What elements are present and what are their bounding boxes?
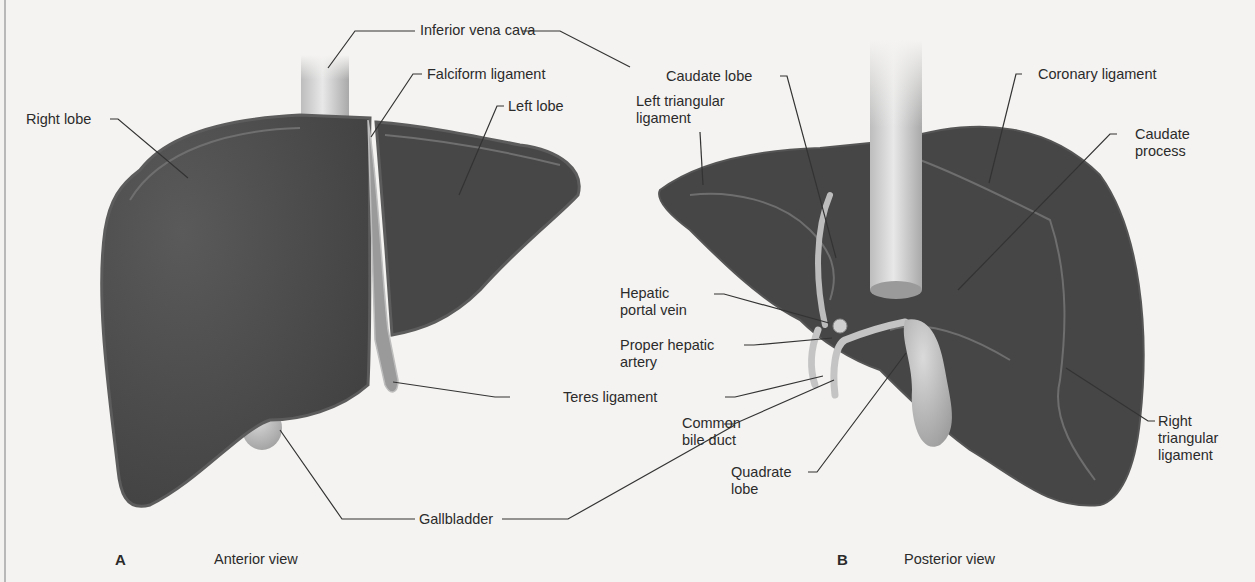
panel-b-title: Posterior view — [904, 551, 995, 567]
label-inferior-vena-cava: Inferior vena cava — [420, 22, 535, 39]
panel-b-letter: B — [837, 551, 848, 568]
panel-a-title: Anterior view — [214, 551, 298, 567]
label-quadrate-lobe: Quadrate lobe — [731, 464, 791, 498]
label-right-triangular-ligament: Right triangular ligament — [1158, 413, 1218, 464]
label-coronary-ligament: Coronary ligament — [1038, 66, 1156, 83]
left-lobe-shape — [376, 122, 579, 335]
label-hepatic-portal-vein: Hepatic portal vein — [620, 285, 687, 319]
label-teres-ligament: Teres ligament — [563, 389, 657, 406]
right-lobe-shape — [102, 115, 370, 506]
anterior-view-illustration — [102, 55, 579, 506]
label-falciform-ligament: Falciform ligament — [427, 66, 545, 83]
label-common-bile-duct: Common bile duct — [682, 415, 741, 449]
label-gallbladder: Gallbladder — [419, 511, 493, 528]
label-left-lobe: Left lobe — [508, 98, 564, 115]
label-proper-hepatic-artery: Proper hepatic artery — [620, 337, 714, 371]
label-caudate-lobe: Caudate lobe — [666, 68, 752, 85]
label-left-triangular-ligament: Left triangular ligament — [636, 93, 725, 127]
panel-a-letter: A — [115, 551, 126, 568]
label-right-lobe: Right lobe — [26, 111, 91, 128]
label-caudate-process: Caudate process — [1135, 126, 1190, 160]
